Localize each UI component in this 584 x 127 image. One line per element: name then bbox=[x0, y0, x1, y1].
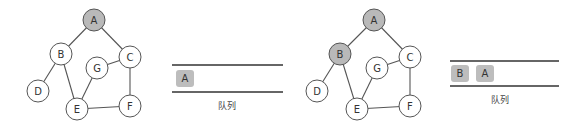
node-D: D bbox=[27, 80, 49, 102]
queue-item-label: A bbox=[482, 68, 489, 79]
node-C: C bbox=[119, 46, 141, 68]
node-label: G bbox=[93, 63, 101, 74]
queue-item-label: A bbox=[182, 73, 189, 84]
node-A: A bbox=[83, 9, 105, 31]
node-B: B bbox=[50, 43, 72, 65]
node-E: E bbox=[66, 98, 88, 120]
queue-item-A: A bbox=[176, 70, 194, 87]
queue-item-A: A bbox=[476, 65, 494, 82]
node-D: D bbox=[306, 80, 328, 102]
node-label: F bbox=[407, 101, 413, 112]
node-label: B bbox=[337, 49, 344, 60]
graph: ABCGDEF bbox=[306, 9, 421, 120]
queue-caption: 队列 bbox=[218, 100, 236, 111]
panel-2: ABCGDEFBA队列 bbox=[306, 9, 559, 120]
node-label: F bbox=[127, 101, 133, 112]
node-C: C bbox=[399, 46, 421, 68]
graph: ABCGDEF bbox=[27, 9, 141, 120]
node-A: A bbox=[363, 9, 385, 31]
node-label: E bbox=[74, 104, 80, 115]
node-F: F bbox=[119, 95, 141, 117]
node-label: E bbox=[354, 104, 360, 115]
queue-item-label: B bbox=[457, 68, 464, 79]
queue: BA队列 bbox=[450, 61, 559, 105]
node-label: C bbox=[127, 52, 134, 63]
node-label: C bbox=[407, 52, 414, 63]
node-F: F bbox=[399, 95, 421, 117]
node-label: G bbox=[373, 63, 381, 74]
queue-caption: 队列 bbox=[491, 94, 509, 105]
node-label: A bbox=[91, 15, 98, 26]
bfs-diagram: ABCGDEFA队列ABCGDEFBA队列 bbox=[0, 0, 584, 127]
node-label: A bbox=[371, 15, 378, 26]
queue-item-B: B bbox=[451, 65, 469, 82]
panel-1: ABCGDEFA队列 bbox=[27, 9, 283, 120]
queue: A队列 bbox=[172, 65, 283, 111]
node-B: B bbox=[329, 43, 351, 65]
node-G: G bbox=[366, 57, 388, 79]
node-label: D bbox=[313, 86, 321, 97]
node-label: D bbox=[34, 86, 42, 97]
node-label: B bbox=[58, 49, 65, 60]
node-E: E bbox=[346, 98, 368, 120]
node-G: G bbox=[86, 57, 108, 79]
